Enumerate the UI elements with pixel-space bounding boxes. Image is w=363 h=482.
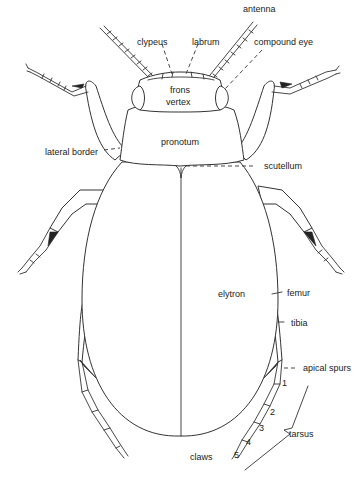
tarsal-segment-4: 4 [246, 437, 251, 447]
label-frons: frons [170, 85, 191, 95]
label-elytron: elytron [218, 289, 245, 299]
compound-eye-right [216, 86, 229, 110]
tarsal-segment-3: 3 [259, 423, 264, 433]
pronotum [120, 104, 244, 166]
label-tarsus: tarsus [289, 429, 314, 439]
label-femur: femur [287, 288, 310, 298]
compound-eye-left [132, 86, 145, 110]
leader-clypeus [162, 44, 172, 74]
tarsal-segment-5: 5 [234, 450, 239, 460]
label-vertex: vertex [166, 97, 191, 107]
tarsus-bracket [245, 386, 308, 470]
label-clypeus: clypeus [137, 37, 168, 47]
elytra [82, 162, 278, 436]
label-antenna: antenna [243, 4, 276, 14]
antenna-right [206, 22, 257, 82]
front-leg-left [26, 64, 126, 160]
antenna-left [100, 26, 157, 82]
label-apical-spurs: apical spurs [303, 363, 352, 373]
leader-compound-eye [224, 50, 262, 90]
tarsal-segment-2: 2 [270, 407, 275, 417]
label-scutellum: scutellum [264, 161, 302, 171]
label-claws: claws [190, 452, 213, 462]
beetle-anatomy-diagram: antenna clypeus labrum compound eye fron… [0, 0, 363, 482]
label-labrum: labrum [192, 37, 220, 47]
front-leg-right [236, 66, 340, 160]
label-compound-eye: compound eye [254, 37, 313, 47]
label-pronotum: pronotum [161, 137, 199, 147]
label-tibia: tibia [291, 318, 308, 328]
tarsal-segment-1: 1 [282, 378, 287, 388]
label-lateral-border: lateral border [45, 147, 98, 157]
leader-labrum [186, 44, 198, 74]
